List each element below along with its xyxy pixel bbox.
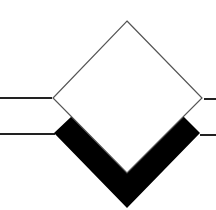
diagram-canvas [0, 0, 216, 210]
relationship-diamond-svg [0, 0, 216, 210]
